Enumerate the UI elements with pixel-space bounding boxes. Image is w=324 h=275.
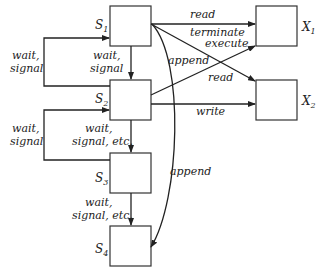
label-loop2-wait: wait, bbox=[12, 122, 39, 135]
node-s3-box bbox=[110, 153, 151, 193]
label-loop2-signal: signal bbox=[10, 135, 44, 148]
label-s2s3-signal: signal, etc. bbox=[72, 135, 133, 148]
label-append-right: append bbox=[170, 165, 211, 178]
label-loop1-wait: wait, bbox=[12, 49, 39, 62]
label-s1s2-signal: signal bbox=[90, 62, 124, 75]
node-x1-box bbox=[256, 6, 297, 46]
node-s1-label: S1 bbox=[95, 18, 108, 34]
node-s4-label: S4 bbox=[95, 242, 108, 258]
node-s2-box bbox=[110, 80, 151, 120]
label-write: write bbox=[196, 105, 226, 118]
node-s1-box bbox=[110, 6, 151, 46]
node-s3-label: S3 bbox=[95, 171, 108, 187]
label-s2s3-wait: wait, bbox=[85, 122, 112, 135]
node-x2-box bbox=[256, 80, 297, 120]
label-append-mid: append bbox=[168, 54, 209, 67]
node-x2-label: X2 bbox=[301, 94, 316, 110]
node-s2-label: S2 bbox=[95, 92, 108, 108]
node-x1-label: X1 bbox=[301, 20, 316, 36]
label-s3s4-signal: signal, etc. bbox=[72, 209, 133, 222]
label-read-top: read bbox=[190, 8, 215, 21]
node-s4-box bbox=[110, 226, 151, 266]
process-resource-diagram: S1 S2 S3 S4 X1 X2 read terminate execute… bbox=[0, 0, 324, 275]
label-s1s2-wait: wait, bbox=[93, 49, 120, 62]
label-s3s4-wait: wait, bbox=[85, 196, 112, 209]
label-loop1-signal: signal bbox=[10, 62, 44, 75]
label-read-mid: read bbox=[208, 71, 233, 84]
label-execute: execute bbox=[205, 37, 249, 50]
